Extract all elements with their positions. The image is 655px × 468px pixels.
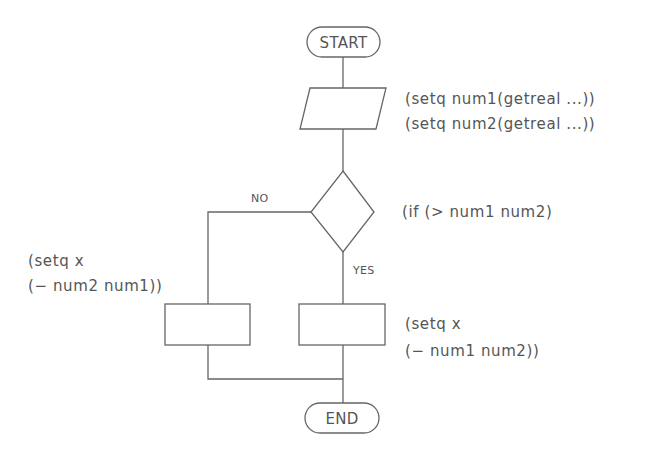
no-annotation-line-2: (− num2 num1)) (28, 277, 162, 295)
start-node: START (307, 27, 380, 57)
no-annotation-line-1: (setq x (28, 252, 84, 270)
start-label: START (320, 34, 368, 52)
yes-annotation-line-2: (− num1 num2)) (405, 342, 539, 360)
end-node: END (305, 403, 379, 433)
yes-process-node (299, 304, 385, 345)
no-label: NO (251, 192, 269, 205)
yes-process-box (299, 304, 385, 345)
decision-node (311, 171, 374, 252)
decision-annotation: (if (> num1 num2) (402, 203, 552, 221)
input-annotation-line-2: (setq num2(getreal ...)) (405, 115, 595, 133)
edge-no-merge (208, 345, 343, 379)
input-node (300, 88, 386, 129)
input-annotation-line-1: (setq num1(getreal ...)) (405, 90, 595, 108)
decision-diamond (311, 171, 374, 252)
yes-label: YES (352, 264, 375, 277)
no-process-box (165, 304, 250, 345)
yes-annotation-line-1: (setq x (405, 315, 461, 333)
end-label: END (325, 410, 358, 428)
flowchart-canvas: START (setq num1(getreal ...)) (setq num… (0, 0, 655, 468)
edge-decision-no (208, 212, 311, 304)
input-parallelogram (300, 88, 386, 129)
no-process-node (165, 304, 250, 345)
